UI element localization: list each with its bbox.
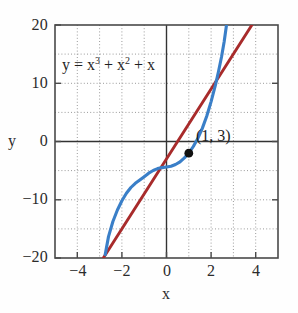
equation-part-1: y = x [62,56,95,73]
curve-equation-label: y = x3 + x2 + x [62,56,155,74]
chart-figure: 20 10 0 −10 −20 −4 −2 0 2 4 y x y = x3 +… [0,0,298,313]
y-tick-label-neg20: −20 [0,248,48,266]
y-tick-label-20: 20 [6,16,48,34]
point-annotation-label: (1, 3) [196,127,231,145]
equation-part-3: + x [130,56,155,73]
x-axis-label: x [162,285,170,303]
x-tick-label-neg4: −4 [57,262,99,280]
x-tick-label-2: 2 [190,262,232,280]
x-tick-label-0: 0 [146,262,188,280]
equation-part-2: + x [100,56,125,73]
x-tick-label-4: 4 [235,262,277,280]
tangent-point-marker [184,149,193,158]
y-tick-label-10: 10 [6,74,48,92]
x-tick-label-neg2: −2 [101,262,143,280]
y-tick-label-neg10: −10 [0,190,48,208]
y-axis-label: y [8,132,16,150]
